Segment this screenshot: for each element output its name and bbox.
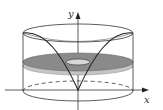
y-axis-label: y	[67, 8, 74, 19]
y-axis-arrow	[76, 12, 81, 19]
x-axis-arrow	[142, 88, 149, 93]
washer-hole	[66, 59, 90, 65]
x-axis-label: x	[144, 94, 150, 105]
solid-of-revolution-diagram: y x	[0, 0, 163, 110]
